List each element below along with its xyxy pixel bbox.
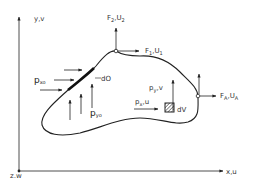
fa-label: FA,UA (220, 92, 239, 101)
d0-label: dO (101, 75, 111, 83)
body-outline (42, 51, 198, 135)
px-label: px,u (135, 98, 149, 107)
pyo-label: pyo (90, 108, 102, 119)
pyo-arrows (70, 84, 92, 120)
node-a (196, 94, 200, 98)
pxo-label: pxo (34, 75, 46, 85)
body-load-diagram: y,v x,u z,w dO F2,U2 F1,U1 FA,UA pxo pyo (0, 0, 257, 178)
volume-element-dv (165, 103, 174, 112)
py-label: py,v (149, 84, 163, 94)
z-axis-label: z,w (10, 172, 22, 178)
x-axis-label: x,u (226, 168, 237, 176)
boundary-segment-do (68, 68, 94, 90)
dv-label: dV (177, 106, 186, 114)
f2-label: F2,U2 (107, 14, 125, 23)
pxo-arrows (40, 70, 82, 90)
y-axis-label: y,v (34, 15, 45, 23)
f1-label: F1,U1 (145, 47, 163, 56)
